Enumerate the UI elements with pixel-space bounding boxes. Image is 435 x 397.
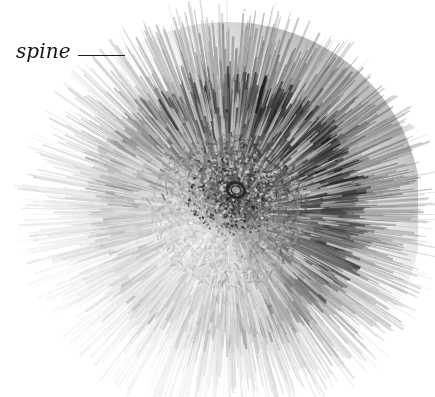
figure-root: spine [0, 0, 435, 397]
callout-label-spine: spine [16, 38, 71, 64]
leader-line-spine [78, 55, 125, 56]
